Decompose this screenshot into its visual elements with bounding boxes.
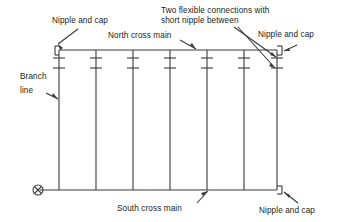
leader-north-cross-main — [180, 40, 196, 49]
piping-diagram: Nipple and cap North cross main Two flex… — [0, 0, 348, 222]
label-nipple-and-cap-bottom-right: Nipple and cap — [259, 206, 315, 216]
label-flexible-connections-line2: short nipple between — [161, 16, 239, 26]
label-south-cross-main: South cross main — [117, 204, 182, 214]
label-flexible-connections-line1: Two flexible connections with — [161, 6, 269, 16]
label-nipple-and-cap-top-left: Nipple and cap — [52, 16, 108, 26]
nipple-cap-top-right-symbol — [277, 46, 282, 55]
leader-arrowheads — [52, 43, 290, 198]
leader-nipple-cap-top-left — [58, 29, 78, 44]
nipple-cap-bottom-right-symbol — [277, 186, 282, 194]
label-branch-line-word2: line — [20, 86, 33, 96]
label-north-cross-main: North cross main — [108, 31, 171, 41]
nipple-cap-top-left-symbol — [55, 46, 59, 55]
label-branch-line-word1: Branch — [20, 72, 47, 82]
label-nipple-and-cap-top-right: Nipple and cap — [258, 30, 314, 40]
flexible-connection-marks — [53, 58, 283, 68]
